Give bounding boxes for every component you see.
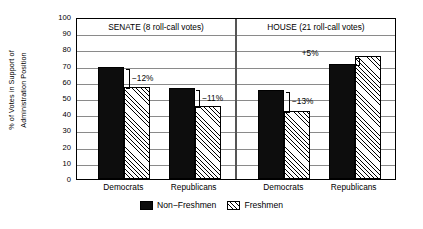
y-tick-label: 30 [49, 127, 71, 135]
difference-bracket [286, 92, 290, 113]
legend-label: Non−Freshmen [157, 200, 216, 210]
y-tick-label: 90 [49, 30, 71, 38]
x-tick-label-senate-republicans: Republicans [154, 182, 234, 192]
y-tick-label: 80 [49, 46, 71, 54]
legend: Non−FreshmenFreshmen [0, 200, 423, 210]
bar-chart: % of Votes in Support of Administration … [0, 0, 423, 229]
panel-divider [235, 19, 237, 179]
y-tick-label: 50 [49, 95, 71, 103]
bar-house-republicans-freshmen [355, 56, 381, 179]
bar-senate-republicans-non-freshmen [169, 88, 195, 179]
difference-label: −11% [202, 93, 223, 103]
bar-house-democrats-freshmen [284, 111, 310, 179]
x-tick-label-house-democrats: Democrats [243, 182, 323, 192]
panel-title-house: HOUSE (21 roll-call votes) [237, 19, 395, 35]
legend-swatch-freshmen [227, 201, 240, 210]
y-axis-title-line-2: Administration Position [19, 52, 28, 127]
y-tick-label: 0 [49, 176, 71, 184]
y-tick-label: 20 [49, 144, 71, 152]
difference-label: −12% [132, 73, 153, 83]
bar-house-democrats-non-freshmen [258, 90, 284, 179]
difference-label: −13% [292, 96, 313, 106]
bar-senate-republicans-freshmen [195, 106, 221, 179]
y-tick-label: 70 [49, 63, 71, 71]
legend-label: Freshmen [244, 200, 283, 210]
bar-senate-democrats-freshmen [124, 87, 150, 179]
legend-swatch-non-freshmen [140, 201, 153, 210]
y-tick-label: 100 [49, 14, 71, 22]
x-tick-label-senate-democrats: Democrats [83, 182, 163, 192]
difference-bracket [356, 58, 360, 66]
legend-item: Non−Freshmen [140, 200, 216, 210]
x-tick-label-house-republicans: Republicans [314, 182, 394, 192]
plot-area: SENATE (8 roll-call votes) HOUSE (21 rol… [76, 18, 396, 180]
y-tick-label: 60 [49, 79, 71, 87]
difference-label: +5% [302, 48, 319, 58]
bar-senate-democrats-non-freshmen [98, 67, 124, 179]
difference-bracket [126, 69, 130, 88]
y-tick-label: 10 [49, 160, 71, 168]
y-axis-title: % of Votes in Support of Administration … [0, 0, 46, 180]
panel-title-senate: SENATE (8 roll-call votes) [77, 19, 235, 35]
bar-house-republicans-non-freshmen [329, 64, 355, 179]
y-axis-title-line-1: % of Votes in Support of [7, 50, 16, 130]
legend-item: Freshmen [227, 200, 283, 210]
y-tick-label: 40 [49, 111, 71, 119]
difference-bracket [196, 90, 200, 108]
